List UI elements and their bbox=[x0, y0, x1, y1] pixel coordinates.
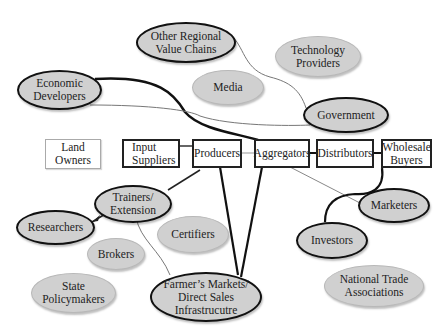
box-wholesale-buyers: Wholesale Buyers bbox=[381, 139, 432, 168]
ellipse-technology-providers: Technology Providers bbox=[275, 36, 361, 77]
ellipse-economic-developers: Economic Developers bbox=[17, 70, 102, 110]
ellipse-investors: Investors bbox=[296, 222, 368, 259]
box-land-owners: Land Owners bbox=[45, 139, 101, 169]
box-input-suppliers: Input Suppliers bbox=[122, 139, 180, 168]
box-distributors: Distributors bbox=[316, 139, 374, 168]
ellipse-media: Media bbox=[192, 70, 264, 105]
ellipse-state-policymakers: State Policymakers bbox=[31, 273, 116, 313]
ellipse-trainers-extension: Trainers/ Extension bbox=[94, 185, 172, 223]
box-producers: Producers bbox=[192, 139, 242, 168]
ellipse-government: Government bbox=[303, 97, 389, 133]
ellipse-marketers: Marketers bbox=[358, 188, 430, 223]
ellipse-brokers: Brokers bbox=[87, 238, 145, 270]
ellipse-researchers: Researchers bbox=[16, 210, 95, 245]
ellipse-other-regional-value-chains: Other Regional Value Chains bbox=[136, 22, 236, 63]
ellipse-national-trade-associations: National Trade Associations bbox=[324, 265, 424, 307]
box-aggregators: Aggregators bbox=[254, 139, 310, 168]
ellipse-farmers-markets: Farmer’s Markets/ Direct Sales Infrastru… bbox=[150, 272, 262, 322]
ellipse-certifiers: Certifiers bbox=[157, 216, 229, 253]
